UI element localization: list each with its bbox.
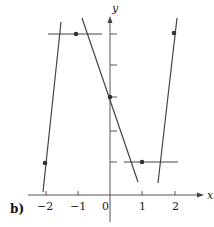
x-tick-label: −1 bbox=[70, 200, 86, 213]
x-axis-label: x bbox=[207, 189, 214, 202]
x-tick-label: 0 bbox=[102, 200, 109, 213]
x-tick-label: 1 bbox=[139, 200, 146, 213]
y-axis-label: y bbox=[111, 2, 119, 15]
panel-label: b) bbox=[10, 202, 24, 216]
tangent-lines-figure: x y −2 −1 0 1 2 bbox=[0, 0, 214, 227]
point-x-1 bbox=[140, 160, 145, 165]
axes: x y bbox=[28, 2, 214, 222]
tangent-line-at-x-2 bbox=[158, 18, 177, 183]
y-axis-arrow-icon bbox=[108, 16, 113, 23]
x-tick-label: −2 bbox=[37, 200, 53, 213]
point-x-0 bbox=[108, 95, 113, 100]
point-x-2 bbox=[172, 31, 177, 36]
point-x-minus-2 bbox=[43, 161, 48, 166]
point-x-minus-1 bbox=[74, 32, 79, 37]
x-ticks: −2 −1 0 1 2 bbox=[37, 191, 179, 213]
tangent-line-at-x-minus-2 bbox=[43, 22, 61, 192]
x-tick-label: 2 bbox=[172, 200, 179, 213]
x-axis-arrow-icon bbox=[197, 193, 204, 198]
